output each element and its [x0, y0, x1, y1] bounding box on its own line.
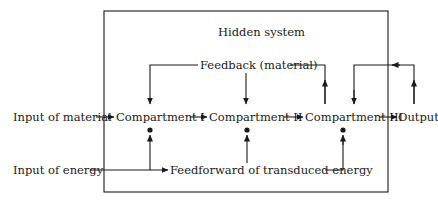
feedback-to-compartment-1-arrow	[150, 65, 198, 104]
hidden-system-diagram: Hidden system Feedback (material) Input …	[0, 0, 438, 205]
energy-node-compartment-3	[340, 127, 345, 132]
output-loop-line	[354, 65, 414, 104]
energy-node-compartment-1	[147, 127, 152, 132]
hidden-system-label: Hidden system	[218, 25, 305, 39]
energy-node-compartment-2	[244, 127, 249, 132]
output-label: Output	[398, 110, 438, 124]
